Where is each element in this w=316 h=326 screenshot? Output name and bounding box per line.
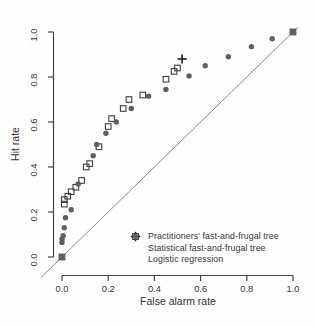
y-tick-label: 0.2: [29, 209, 39, 222]
logistic-regression-point: [103, 131, 108, 136]
y-tick-label: 0.8: [29, 74, 39, 87]
logistic-regression-point: [114, 119, 119, 124]
legend-item-practitioners-fft: Practitioners' fast-and-frugal tree: [130, 231, 279, 242]
statistical-fft-point: [105, 124, 111, 130]
y-tick-label: 0.6: [29, 119, 39, 132]
logistic-regression-point: [129, 106, 134, 111]
legend-item-logistic-regression: Logistic regression: [130, 254, 279, 265]
logistic-regression-point: [60, 233, 65, 238]
logistic-regression-point: [59, 254, 64, 259]
logistic-regression-point: [290, 29, 295, 34]
y-axis-title: Hit rate: [9, 127, 21, 161]
logistic-regression-point: [94, 142, 99, 147]
logistic-regression-point: [75, 181, 80, 186]
y-tick-label: 0.0: [29, 254, 39, 267]
statistical-fft-point: [109, 116, 115, 122]
x-tick-label: 0.6: [194, 284, 207, 294]
logistic-regression-point: [249, 44, 254, 49]
legend-label-statistical-fft: Statistical fast-and-frugal tree: [148, 243, 266, 253]
x-tick-label: 0.0: [56, 284, 69, 294]
statistical-fft-point: [83, 164, 89, 170]
statistical-fft-point: [126, 97, 132, 103]
logistic-regression-point: [163, 87, 168, 92]
legend-label-logistic-regression: Logistic regression: [148, 254, 223, 264]
x-tick-label: 0.2: [102, 284, 115, 294]
logistic-regression-point: [90, 153, 95, 158]
logistic-regression-point: [69, 207, 74, 212]
statistical-fft-point: [163, 76, 169, 82]
logistic-regression-point: [63, 215, 68, 220]
y-tick-label: 0.4: [29, 164, 39, 177]
plot-canvas: 0.00.20.40.60.81.00.00.20.40.60.81.0: [0, 0, 316, 326]
x-tick-label: 0.4: [148, 284, 161, 294]
legend-item-statistical-fft: Statistical fast-and-frugal tree: [130, 243, 279, 254]
x-tick-label: 0.8: [240, 284, 253, 294]
open-square-marker-icon: [130, 243, 143, 253]
legend-label-practitioners-fft: Practitioners' fast-and-frugal tree: [148, 231, 279, 241]
x-tick-label: 1.0: [287, 284, 300, 294]
logistic-regression-point: [203, 63, 208, 68]
statistical-fft-point: [140, 92, 146, 98]
logistic-regression-point: [270, 36, 275, 41]
x-axis-title: False alarm rate: [140, 295, 216, 307]
statistical-fft-point: [171, 69, 177, 75]
logistic-regression-point: [226, 54, 231, 59]
logistic-regression-point: [146, 93, 151, 98]
legend: Practitioners' fast-and-frugal tree Stat…: [130, 231, 279, 265]
filled-circle-marker-icon: [130, 254, 143, 264]
y-tick-label: 1.0: [29, 29, 39, 42]
statistical-fft-point: [175, 65, 181, 71]
logistic-regression-point: [62, 225, 67, 230]
statistical-fft-point: [120, 106, 126, 112]
roc-figure: 0.00.20.40.60.81.00.00.20.40.60.81.0 Hit…: [0, 0, 316, 326]
logistic-regression-point: [186, 73, 191, 78]
statistical-fft-point: [87, 161, 93, 167]
